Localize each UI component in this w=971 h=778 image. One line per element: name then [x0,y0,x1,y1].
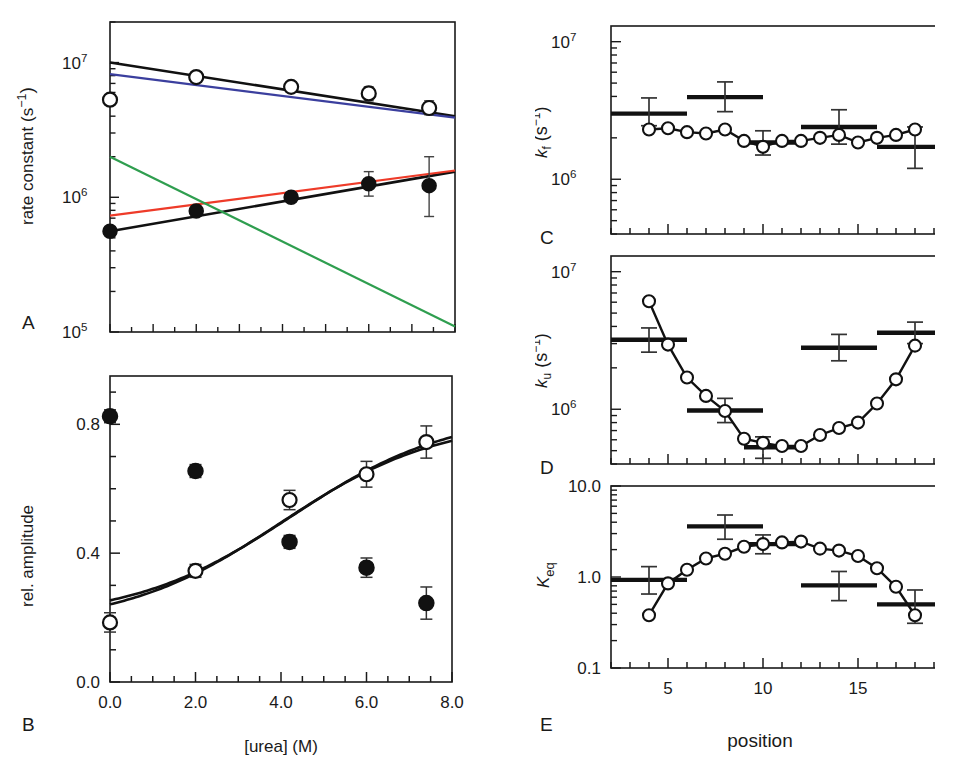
svg-text:1.0: 1.0 [577,568,601,587]
data-point [852,136,864,148]
svg-text:5: 5 [663,679,672,698]
svg-text:kf (s−1): kf (s−1) [535,106,554,158]
panel-d-chart: 107106ku (s−1) [535,238,935,488]
data-point [871,398,883,410]
data-point [833,422,845,434]
data-point [719,123,731,135]
data-point [738,433,750,445]
svg-text:0.0: 0.0 [76,673,100,692]
svg-text:4.0: 4.0 [269,693,293,712]
data-point [776,536,788,548]
data-point [719,405,731,417]
data-point [909,609,921,621]
panel-d-y-axis-title: ku (s−1) [535,333,554,388]
panel-label-b: B [22,714,35,736]
svg-text:0.0: 0.0 [98,693,122,712]
data-point [833,545,845,557]
data-point [890,373,902,385]
panel-label-a: A [22,312,35,334]
data-trace [649,542,915,616]
svg-text:105: 105 [62,321,87,342]
panel-c-chart: 107106kf (s−1) [535,8,935,258]
svg-text:106: 106 [551,168,576,189]
svg-text:rel. amplitude: rel. amplitude [18,505,37,607]
panel-b-y-axis-title: rel. amplitude [18,505,37,607]
data-point [871,132,883,144]
data-point [890,581,902,593]
data-point [814,429,826,441]
data-point [890,129,902,141]
svg-text:0.4: 0.4 [76,544,100,563]
svg-text:2.0: 2.0 [184,693,208,712]
data-point [776,440,788,452]
data-point [681,126,693,138]
figure-root: 107106105rate constant (s−1) A 0.80.40.0… [0,0,971,778]
data-point [662,577,674,589]
panel-e-chart: 10.01.00.15101520Keq [535,468,935,728]
data-point [719,548,731,560]
data-point [795,135,807,147]
svg-text:106: 106 [551,398,576,419]
data-point [795,440,807,452]
data-point [643,123,655,135]
data-point [776,135,788,147]
svg-text:rate constant (s−1): rate constant (s−1) [15,87,37,225]
data-point [700,128,712,140]
svg-text:107: 107 [551,261,576,282]
data-point [814,132,826,144]
data-point [909,340,921,352]
panel-e-y-axis-title: Keq [535,562,557,588]
data-point [681,372,693,384]
svg-text:10.0: 10.0 [568,477,601,496]
panel-a-y-axis-title: rate constant (s−1) [15,87,37,225]
data-point [643,609,655,621]
svg-text:8.0: 8.0 [440,693,464,712]
data-point [814,543,826,555]
data-point [852,550,864,562]
data-point [681,564,693,576]
panel-label-e: E [540,714,553,736]
panel-e-x-axis-title: position [727,730,793,752]
data-point [738,541,750,553]
svg-text:Keq: Keq [535,562,557,588]
data-point [833,129,845,141]
data-point [757,141,769,153]
data-point [700,390,712,402]
svg-text:6.0: 6.0 [355,693,379,712]
svg-text:106: 106 [62,186,87,207]
data-point [909,123,921,135]
data-point [738,135,750,147]
data-point [662,339,674,351]
data-point [852,417,864,429]
data-point [795,536,807,548]
svg-text:0.8: 0.8 [76,415,100,434]
svg-text:107: 107 [551,31,576,52]
data-point [643,295,655,307]
svg-text:15: 15 [849,679,868,698]
panel-c-y-axis-title: kf (s−1) [535,106,554,158]
data-point [662,122,674,134]
panel-b-x-axis-title: [urea] (M) [244,737,318,756]
svg-text:107: 107 [62,52,87,73]
svg-text:0.1: 0.1 [577,659,601,678]
data-point [700,552,712,564]
panel-b-chart: 0.80.40.00.02.04.06.08.0rel. amplitude[u… [0,352,500,772]
svg-text:ku (s−1): ku (s−1) [535,333,554,388]
data-point [871,562,883,574]
data-point [757,538,769,550]
svg-text:10: 10 [754,679,773,698]
data-point [757,437,769,449]
panel-a-chart: 107106105rate constant (s−1) [0,0,480,345]
